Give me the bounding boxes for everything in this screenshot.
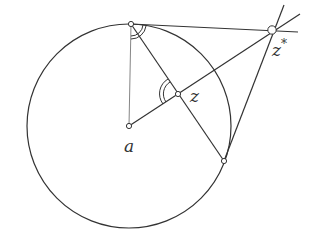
label-z-star-base: z (272, 40, 281, 60)
point-t1 (128, 21, 133, 26)
label-a: a (124, 138, 134, 155)
radius-line-a-t1 (129, 24, 131, 126)
inversion-diagram (0, 0, 327, 244)
label-z-star-sup: * (281, 37, 287, 51)
point-t2 (221, 158, 226, 163)
label-z-star: z* (272, 42, 287, 59)
point-z (175, 91, 180, 96)
point-z-star (268, 26, 276, 34)
label-z: z (190, 88, 199, 105)
point-a (126, 123, 131, 128)
angle-mark-z-inner (163, 82, 170, 102)
